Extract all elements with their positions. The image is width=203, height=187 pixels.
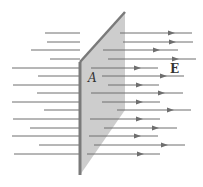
arrowhead-icon [169, 40, 176, 45]
arrowhead-icon [167, 108, 174, 113]
arrowhead-icon [160, 74, 167, 79]
arrowhead-icon [134, 134, 141, 139]
field-label-E: E [170, 62, 179, 76]
arrowhead-icon [158, 91, 165, 96]
arrowhead-icon [136, 83, 143, 88]
arrowhead-icon [152, 126, 159, 131]
diagram-canvas: A E [0, 0, 203, 187]
field-lines-front-segments [12, 33, 80, 154]
arrowhead-icon [168, 31, 175, 36]
arrowhead-icon [172, 57, 179, 62]
surface-label-A: A [87, 71, 97, 85]
arrowhead-icon [161, 143, 168, 148]
electric-flux-diagram: A E [0, 0, 203, 187]
arrowhead-icon [137, 152, 144, 157]
arrowhead-icon [136, 117, 143, 122]
arrowhead-icon [136, 100, 143, 105]
arrowhead-icon [134, 66, 141, 71]
arrowhead-icon [153, 48, 160, 53]
